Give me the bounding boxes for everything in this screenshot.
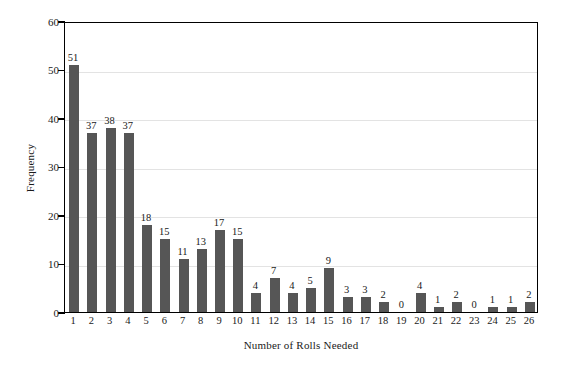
bar — [452, 302, 462, 312]
bar — [270, 278, 280, 312]
y-tick-label: 20 — [19, 211, 59, 222]
bar — [197, 249, 207, 312]
bar — [507, 307, 517, 312]
gridline-10 — [65, 266, 537, 267]
bar-value-label: 4 — [408, 281, 432, 292]
y-tick-label: 10 — [19, 259, 59, 270]
plot-area — [64, 22, 538, 313]
bar — [525, 302, 535, 312]
bar — [288, 293, 298, 312]
bar — [324, 268, 334, 312]
bar — [361, 297, 371, 312]
y-tick-label: 30 — [19, 162, 59, 173]
bar — [179, 259, 189, 312]
bar — [251, 293, 261, 312]
bar — [306, 288, 316, 312]
bar-value-label: 7 — [262, 266, 286, 277]
y-tick-label: 40 — [19, 114, 59, 125]
bar — [142, 225, 152, 312]
bar-value-label: 15 — [152, 227, 176, 238]
bar-value-label: 5 — [298, 276, 322, 287]
bar-value-label: 18 — [134, 213, 158, 224]
bar — [160, 239, 170, 312]
bar-value-label: 51 — [61, 53, 85, 64]
bar — [343, 297, 353, 312]
bar — [488, 307, 498, 312]
bar-value-label: 4 — [243, 281, 267, 292]
bar-value-label: 37 — [116, 121, 140, 132]
gridline-30 — [65, 169, 537, 170]
bar — [124, 133, 134, 312]
x-tick-label: 26 — [517, 316, 541, 327]
bar — [379, 302, 389, 312]
bar — [106, 128, 116, 312]
bar-value-label: 9 — [316, 256, 340, 267]
bar-value-label: 15 — [225, 227, 249, 238]
bar — [434, 307, 444, 312]
bar-chart-figure: Frequency 0102030405060 1234567891011121… — [0, 0, 568, 370]
bar — [69, 65, 79, 312]
gridline-50 — [65, 72, 537, 73]
bar-value-label: 11 — [171, 247, 195, 258]
bar — [233, 239, 243, 312]
bar — [416, 293, 426, 312]
y-tick-label: 0 — [19, 308, 59, 319]
y-tick-label: 50 — [19, 65, 59, 76]
bar-value-label: 0 — [389, 300, 413, 311]
bar — [215, 230, 225, 313]
bar-value-label: 13 — [189, 237, 213, 248]
bar-value-label: 2 — [517, 290, 541, 301]
bar — [87, 133, 97, 312]
y-tick-label: 60 — [19, 17, 59, 28]
x-axis-title: Number of Rolls Needed — [64, 339, 538, 351]
